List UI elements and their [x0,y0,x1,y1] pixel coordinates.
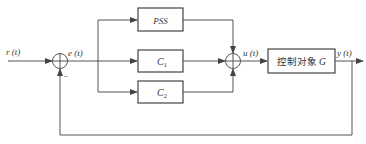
block-diagram: r (t) e (t) u (t) y (t) − PSS C1 C2 控制对象… [0,0,366,144]
c1-label: C1 [157,56,167,68]
output-label: y (t) [336,48,352,58]
pss-output-line [183,20,233,53]
error-label: e (t) [68,48,83,58]
svg-text:C2: C2 [157,87,167,99]
feedback-line [60,61,352,135]
svg-text:控制对象G: 控制对象G [277,56,326,67]
minus-sign: − [63,72,68,81]
summing-junction-2 [226,54,241,69]
input-label: r (t) [6,47,20,57]
c2-output-line [183,69,233,92]
plant-label: 控制对象G [277,56,326,67]
c2-label: C2 [157,87,167,99]
summing-junction-1 [53,54,68,69]
svg-text:C1: C1 [157,56,167,68]
pss-label: PSS [152,16,168,26]
control-label: u (t) [243,48,258,58]
